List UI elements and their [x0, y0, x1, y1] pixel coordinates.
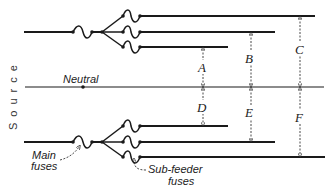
top-feeder — [24, 10, 315, 53]
dimension-label-d: D — [196, 100, 207, 115]
sub-feeder-fuses-label: Sub-feeder — [148, 163, 204, 175]
sub-feeder-leader — [134, 160, 146, 170]
sub-feeder-fuse-icon — [123, 151, 140, 163]
main-fuses-leader — [60, 147, 79, 160]
distribution-diagram: Source Neutral — [0, 0, 334, 194]
bottom-feeder — [24, 120, 325, 163]
main-fuses-label-2: fuses — [31, 160, 58, 172]
sub-feeder-fuse-icon — [123, 10, 140, 22]
main-fuse-bottom-icon — [73, 136, 92, 148]
source-label: Source — [7, 59, 19, 130]
sub-feeder-fuse-icon — [123, 26, 140, 38]
sub-feeder-fuse-icon — [123, 136, 140, 148]
sub-feeder-fuses-label-2: fuses — [168, 175, 195, 187]
sub-feeder-fuse-icon — [123, 41, 140, 53]
sub-feeder-fuse-icon — [123, 120, 140, 132]
neutral-label: Neutral — [63, 73, 99, 85]
dimension-label-e: E — [244, 105, 253, 120]
neutral-point — [81, 85, 85, 89]
dimension-label-a: A — [197, 60, 206, 75]
dimension-label-b: B — [245, 51, 253, 66]
main-fuse-top-icon — [73, 26, 92, 38]
dimension-label-c: C — [295, 42, 304, 57]
dimension-label-f: F — [294, 110, 304, 125]
